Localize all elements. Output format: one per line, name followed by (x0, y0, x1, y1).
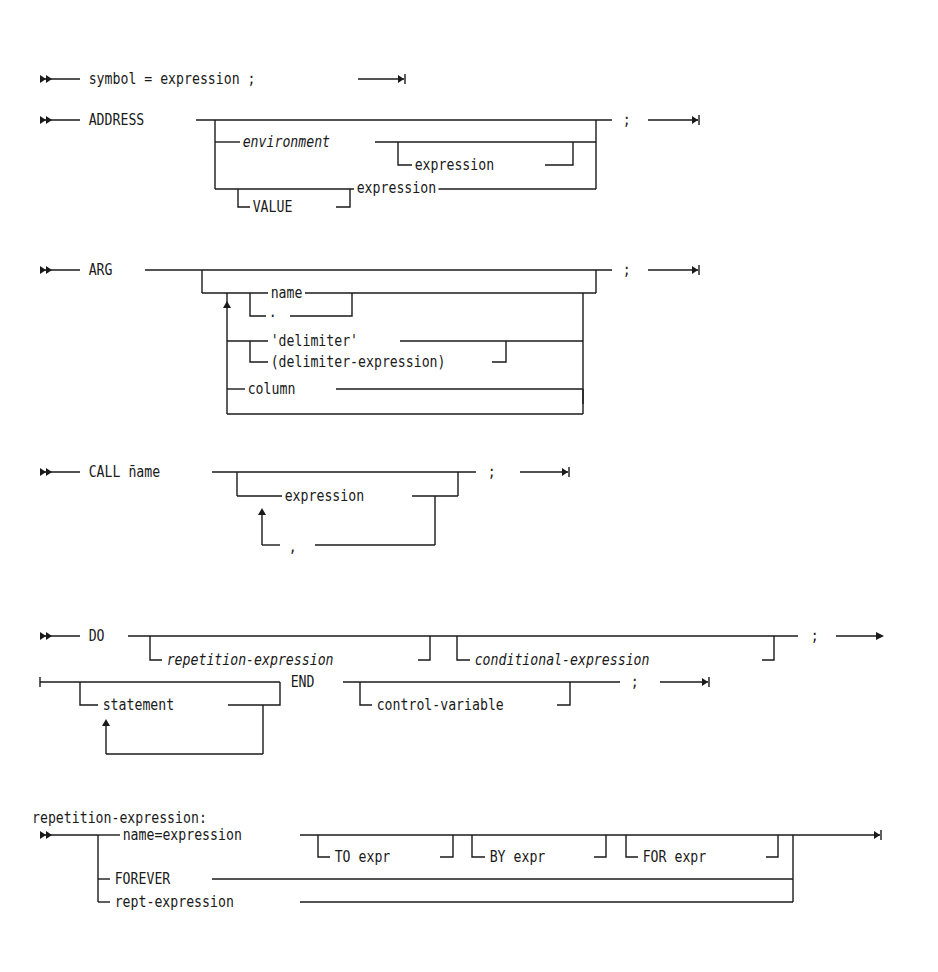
start-icon (40, 75, 80, 83)
address-value-expression: expression (354, 181, 439, 196)
arg-keyword: ARG (86, 263, 115, 278)
do-control-variable: control-variable (374, 698, 506, 713)
call-separator: , (286, 540, 299, 555)
rep-for-expr: FOR expr (640, 850, 709, 865)
rep-by-expr: BY expr (487, 850, 548, 865)
do-terminator-2: ; (628, 675, 641, 690)
do-terminator-1: ; (808, 629, 821, 644)
rep-to-expr: TO expr (332, 850, 393, 865)
address-terminator: ; (620, 113, 633, 128)
repetition-expression-heading: repetition-expression: (32, 811, 207, 826)
rep-name-expression: name=expression (120, 828, 244, 843)
call-terminator: ; (485, 465, 498, 480)
rep-rept-expression: rept-expression (112, 895, 236, 910)
arg-terminator: ; (620, 263, 633, 278)
arg-delimiter-expression: (delimiter-expression) (268, 355, 448, 370)
do-statement: statement (100, 698, 177, 713)
arg-column: column (245, 382, 298, 397)
arg-name: name (268, 286, 305, 301)
arg-delimiter: 'delimiter' (268, 334, 361, 349)
end-icon (398, 74, 405, 84)
do-conditional-expression: conditional-expression (472, 653, 652, 668)
do-end: END (288, 675, 317, 690)
address-env-expression: expression (412, 158, 497, 173)
syntax-diagram-page: symbol = expression ; ADDRESS environmen… (0, 0, 938, 972)
assignment-text: symbol = expression ; (86, 72, 258, 87)
address-value: VALUE (250, 200, 295, 215)
call-expression: expression (282, 489, 367, 504)
rep-forever: FOREVER (112, 872, 173, 887)
arg-dot: . (266, 305, 279, 320)
do-keyword: DO (86, 629, 107, 644)
address-keyword: ADDRESS (86, 113, 147, 128)
address-environment: environment (240, 135, 333, 150)
do-repetition-expression: repetition-expression (164, 653, 336, 668)
call-keyword: CALL n̄ame (86, 465, 163, 480)
